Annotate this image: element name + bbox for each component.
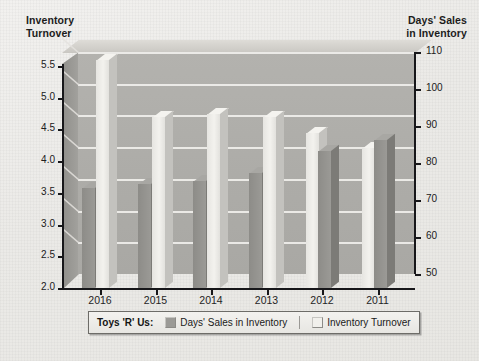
right-axis-tick-mark (415, 52, 421, 54)
x-axis-category-label: 2011 (358, 294, 398, 306)
left-axis-tick-mark (58, 66, 63, 68)
right-axis-tick-label: 70 (426, 193, 437, 204)
legend-swatch-days-sales (165, 317, 176, 328)
bar-front-face (263, 117, 276, 288)
right-axis-tick-mark (415, 274, 421, 276)
bar-side-face (331, 145, 339, 288)
bar-days-sales-in-inventory[interactable] (318, 151, 331, 288)
left-axis-tick-mark (58, 193, 63, 195)
bar-front-face (152, 117, 165, 288)
bar-front-face (82, 188, 95, 288)
legend-label-inventory-turnover: Inventory Turnover (327, 317, 410, 328)
bar-days-sales-in-inventory[interactable] (138, 184, 151, 288)
x-axis-line (62, 288, 415, 290)
bar-inventory-turnover[interactable] (207, 114, 220, 288)
legend-swatch-inventory-turnover (312, 317, 323, 328)
bar-front-face (96, 60, 109, 288)
bar-side-face (387, 134, 395, 288)
right-axis-tick-mark (415, 237, 421, 239)
gridline (78, 115, 415, 117)
x-axis-category-label: 2012 (302, 294, 342, 306)
gridline (78, 84, 415, 86)
right-axis-title: Days' Sales in Inventory (406, 14, 467, 40)
left-axis-title-line1: Inventory (26, 14, 74, 27)
bar-front-face (318, 151, 331, 288)
x-axis-category-label: 2016 (80, 294, 120, 306)
bar-inventory-turnover[interactable] (263, 117, 276, 288)
x-axis-category-label: 2015 (136, 294, 176, 306)
right-axis-title-line2: in Inventory (406, 27, 467, 40)
bar-front-face (249, 173, 262, 288)
left-axis-tick-label: 5.0 (41, 91, 55, 102)
gridline (78, 52, 415, 54)
left-axis-tick-label: 3.5 (41, 186, 55, 197)
right-axis-tick-mark (415, 200, 421, 202)
left-axis-tick-label: 4.0 (41, 154, 55, 165)
legend-title: Toys 'R' Us: (97, 317, 153, 328)
bar-days-sales-in-inventory[interactable] (193, 181, 206, 288)
legend-divider (299, 316, 300, 329)
bar-front-face (138, 184, 151, 288)
bar-side-face (220, 107, 228, 288)
bar-days-sales-in-inventory[interactable] (249, 173, 262, 288)
left-axis-title: Inventory Turnover (26, 14, 74, 40)
left-axis-tick-mark (58, 225, 63, 227)
left-axis-tick-mark (58, 98, 63, 100)
bar-side-face (276, 110, 284, 288)
right-axis-tick-label: 60 (426, 230, 437, 241)
right-axis-tick-mark (415, 126, 421, 128)
left-axis-tick-mark (58, 129, 63, 131)
left-axis-tick-label: 2.5 (41, 249, 55, 260)
right-axis-tick-label: 80 (426, 156, 437, 167)
x-axis-category-label: 2013 (247, 294, 287, 306)
left-axis-tick-label: 2.0 (41, 281, 55, 292)
bar-front-face (193, 181, 206, 288)
bar-days-sales-in-inventory[interactable] (82, 188, 95, 288)
x-axis-category-label: 2014 (191, 294, 231, 306)
left-axis-tick-label: 3.0 (41, 218, 55, 229)
legend-item-days-sales[interactable]: Days' Sales in Inventory (165, 317, 287, 328)
right-axis-tick-mark (415, 163, 421, 165)
bar-side-face (165, 110, 173, 288)
bar-inventory-turnover[interactable] (96, 60, 109, 288)
bar-front-face (374, 140, 387, 288)
left-axis-tick-label: 5.5 (41, 59, 55, 70)
legend-item-inventory-turnover[interactable]: Inventory Turnover (312, 317, 410, 328)
left-axis-tick-label: 4.5 (41, 122, 55, 133)
right-axis-tick-mark (415, 89, 421, 91)
bar-inventory-turnover[interactable] (152, 117, 165, 288)
chart-legend: Toys 'R' Us: Days' Sales in Inventory In… (88, 311, 420, 334)
right-axis-tick-label: 90 (426, 119, 437, 130)
left-axis-tick-mark (58, 288, 63, 290)
right-axis-tick-label: 100 (426, 82, 443, 93)
left-axis-tick-mark (58, 161, 63, 163)
bar-days-sales-in-inventory[interactable] (374, 140, 387, 288)
chart-plot-area: 5.55.04.54.03.53.02.52.0 110100908070605… (62, 52, 415, 290)
legend-label-days-sales: Days' Sales in Inventory (180, 317, 287, 328)
right-axis-title-line1: Days' Sales (406, 14, 467, 27)
bar-front-face (207, 114, 220, 288)
right-axis-tick-label: 50 (426, 267, 437, 278)
left-axis-title-line2: Turnover (26, 27, 74, 40)
bar-side-face (109, 53, 117, 288)
right-axis-tick-label: 110 (426, 45, 442, 56)
left-axis-tick-mark (58, 256, 63, 258)
